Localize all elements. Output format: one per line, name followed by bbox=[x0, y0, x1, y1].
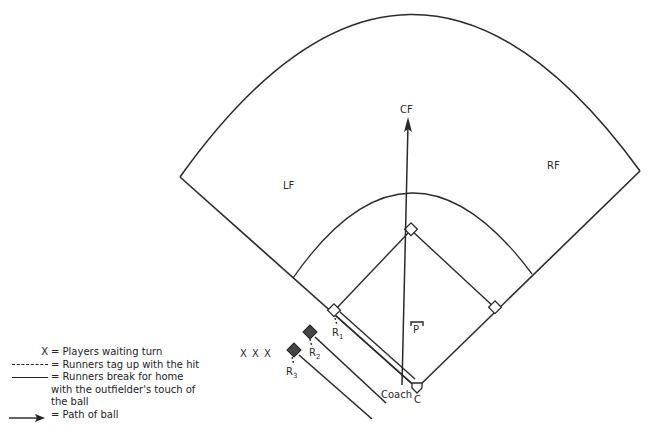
label-coach: Coach bbox=[381, 389, 412, 400]
label-r2: R2 bbox=[309, 347, 320, 361]
right-foul-line bbox=[417, 171, 640, 388]
label-pitcher: P bbox=[413, 324, 419, 335]
legend-arrow-icon bbox=[4, 409, 48, 421]
r1-dash bbox=[335, 318, 337, 325]
first-base bbox=[489, 301, 502, 314]
r1-path-a bbox=[336, 316, 411, 383]
r1-sub: 1 bbox=[339, 333, 343, 341]
legend-text-waiting: = Players waiting turn bbox=[51, 346, 241, 359]
r2-sub: 2 bbox=[316, 353, 320, 361]
infield-arc bbox=[293, 193, 532, 278]
r2-dash bbox=[310, 339, 312, 347]
label-r1: R1 bbox=[332, 327, 343, 341]
legend-x-symbol: X bbox=[4, 346, 48, 358]
r3-path bbox=[299, 355, 372, 419]
legend-item-tag-up: = Runners tag up with the hit bbox=[4, 359, 241, 372]
runner-r3-marker bbox=[287, 343, 301, 357]
r1-letter: R bbox=[332, 327, 339, 338]
legend-solid-line-icon bbox=[4, 371, 48, 383]
legend: X = Players waiting turn = Runners tag u… bbox=[4, 346, 241, 421]
label-rf: RF bbox=[547, 160, 560, 171]
r3-sub: 3 bbox=[293, 372, 297, 380]
r3-letter: R bbox=[286, 366, 293, 377]
legend-text-tag-up: = Runners tag up with the hit bbox=[51, 359, 241, 372]
legend-item-waiting: X = Players waiting turn bbox=[4, 346, 241, 359]
legend-item-break-home: = Runners break for home with the outfie… bbox=[4, 371, 241, 409]
ball-path-line bbox=[402, 124, 408, 385]
label-catcher: C bbox=[414, 394, 421, 405]
runner-r2-marker bbox=[303, 325, 317, 339]
r2-path bbox=[315, 337, 386, 403]
basepath-3rd-2nd bbox=[334, 230, 411, 311]
r3-dash bbox=[292, 357, 294, 365]
waiting-players: X X X bbox=[240, 348, 272, 359]
home-plate bbox=[412, 383, 422, 393]
outfield-fence bbox=[180, 14, 640, 177]
label-r3: R3 bbox=[286, 366, 297, 380]
legend-text-ball-path: = Path of ball bbox=[51, 409, 241, 422]
legend-item-ball-path: = Path of ball bbox=[4, 409, 241, 422]
legend-dashed-line-icon bbox=[4, 359, 48, 371]
basepath-2nd-1st bbox=[411, 230, 495, 308]
legend-text-break-home: = Runners break for home with the outfie… bbox=[51, 371, 201, 409]
label-cf: CF bbox=[400, 104, 413, 115]
label-lf: LF bbox=[283, 180, 294, 191]
r2-letter: R bbox=[309, 347, 316, 358]
